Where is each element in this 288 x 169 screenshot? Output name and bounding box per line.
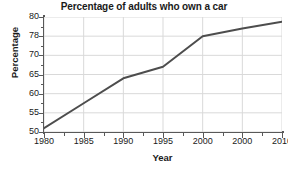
y-tick-label: 65 [13,70,39,79]
x-tick-mark [163,133,164,138]
x-axis-title: Year [40,152,285,163]
line-chart: Percentage of adults who own a car Perce… [0,0,288,169]
y-tick-label: 55 [13,108,39,117]
x-tick-mark-minor [104,133,105,136]
x-tick-mark [282,133,283,138]
x-tick-mark-minor [223,133,224,136]
x-tick-mark [203,133,204,138]
x-tick-mark [123,133,124,138]
x-tick-mark-minor [183,133,184,136]
y-tick-label: 60 [13,89,39,98]
plot-area [44,17,282,132]
y-tick-label: 70 [13,50,39,59]
chart-title: Percentage of adults who own a car [0,1,288,12]
x-tick-mark [44,133,45,138]
x-tick-mark-minor [262,133,263,136]
x-tick-label: 2010 [260,136,288,146]
plot-svg [44,17,282,132]
y-tick-label: 80 [13,12,39,21]
x-tick-mark [84,133,85,138]
grid-lines [44,17,282,132]
x-tick-mark [242,133,243,138]
y-tick-label: 50 [13,127,39,136]
y-tick-label: 78 [13,31,39,40]
x-tick-mark-minor [143,133,144,136]
x-tick-mark-minor [64,133,65,136]
